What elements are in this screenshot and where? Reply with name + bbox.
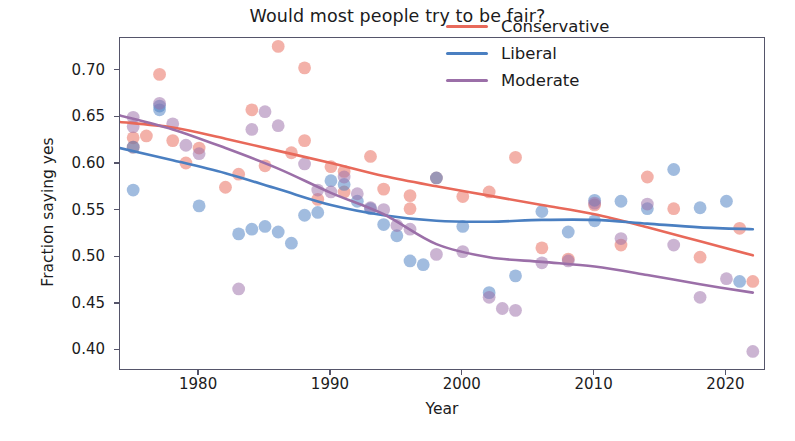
data-point [694,251,707,264]
data-point [193,200,206,213]
data-point [298,134,311,147]
scatter-group-liberal [127,100,746,299]
data-point [166,134,179,147]
data-point [404,202,417,215]
legend-swatch-liberal [446,52,488,55]
data-point [509,304,522,317]
data-point [417,258,430,271]
data-point [232,283,245,296]
trend-line-conservative [120,122,753,255]
data-point [615,232,628,245]
chart-title: Would most people try to be fair? [0,6,795,26]
data-point [720,195,733,208]
data-point [430,172,443,185]
data-point [364,150,377,163]
y-tick-label: 0.55 [47,201,105,219]
data-point [720,272,733,285]
y-tick-label: 0.40 [47,340,105,358]
data-point [496,302,509,315]
data-point [180,139,193,152]
legend-label: Moderate [501,71,579,90]
data-point [298,209,311,222]
data-point [509,151,522,164]
x-tick-mark [725,370,726,375]
data-point [140,130,153,143]
x-tick-mark [461,370,462,375]
data-point [667,202,680,215]
data-point [272,119,285,132]
x-tick-label: 1990 [295,375,365,393]
chart-legend: ConservativeLiberalModerate [440,9,619,98]
data-point [272,226,285,239]
data-point [404,255,417,268]
data-point [259,105,272,118]
x-axis-label: Year [119,400,765,418]
data-point [667,239,680,252]
data-point [153,68,166,81]
data-point [259,220,272,233]
scatter-group-moderate [127,97,759,358]
y-tick-label: 0.45 [47,294,105,312]
data-point [298,158,311,171]
data-point [404,189,417,202]
data-point [272,40,285,53]
legend-label: Conservative [501,17,609,36]
data-point [733,275,746,288]
y-tick-label: 0.70 [47,61,105,79]
data-point [127,184,140,197]
trend-line-liberal [120,148,753,229]
y-tick-label: 0.65 [47,107,105,125]
data-point [746,275,759,288]
data-point [615,195,628,208]
x-tick-label: 1980 [163,375,233,393]
data-point [245,223,258,236]
trend-line-moderate [120,115,753,292]
data-point [746,345,759,358]
data-point [325,174,338,187]
data-point [430,248,443,261]
legend-swatch-moderate [446,79,488,82]
data-point [377,218,390,231]
data-point [694,291,707,304]
data-point [245,103,258,116]
data-point [641,171,654,184]
data-point [153,97,166,110]
data-point [193,147,206,160]
x-tick-label: 2010 [559,375,629,393]
data-point [232,227,245,240]
data-point [694,201,707,214]
data-point [377,183,390,196]
x-tick-label: 2020 [690,375,760,393]
chart-figure: Would most people try to be fair? Fracti… [0,0,795,441]
data-point [667,163,680,176]
x-tick-label: 2000 [427,375,497,393]
x-tick-mark [593,370,594,375]
legend-item-conservative[interactable]: Conservative [446,13,609,40]
data-point [351,187,364,200]
data-point [483,291,496,304]
data-point [285,237,298,250]
legend-swatch-conservative [446,25,488,28]
data-point [311,206,324,219]
x-tick-mark [197,370,198,375]
y-tick-label: 0.60 [47,154,105,172]
data-point [245,123,258,136]
data-point [298,61,311,74]
data-point [588,197,601,210]
data-point [509,269,522,282]
data-point [219,181,232,194]
legend-item-liberal[interactable]: Liberal [446,40,609,67]
y-tick-label: 0.50 [47,247,105,265]
legend-label: Liberal [501,44,557,63]
data-point [535,241,548,254]
data-point [641,198,654,211]
x-tick-mark [329,370,330,375]
legend-item-moderate[interactable]: Moderate [446,67,609,94]
data-point [562,226,575,239]
data-point [338,171,351,184]
